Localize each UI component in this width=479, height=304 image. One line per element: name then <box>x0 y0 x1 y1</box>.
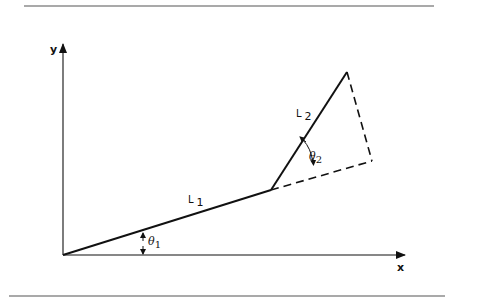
l2-projection-dashed <box>347 72 372 161</box>
y-axis-label: y <box>50 43 57 56</box>
diagram-canvas: y x L1 L2 θ1 θ2 <box>0 0 479 304</box>
l2-label: L2 <box>296 108 312 123</box>
theta1-label: θ1 <box>148 235 161 250</box>
theta2-label: θ2 <box>309 150 322 165</box>
link-l1 <box>63 190 271 255</box>
l1-label: L1 <box>188 194 204 209</box>
link-l2 <box>271 72 347 190</box>
x-axis-label: x <box>397 261 404 274</box>
